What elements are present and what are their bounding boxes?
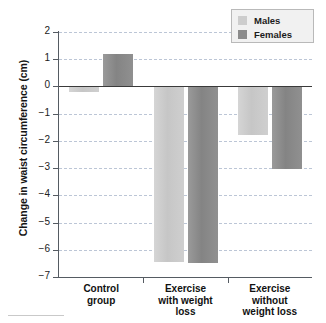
y-axis-tick-label: −1 bbox=[24, 107, 50, 118]
y-axis-tick-label: −4 bbox=[24, 188, 50, 199]
y-axis-tick bbox=[53, 114, 59, 115]
zero-line bbox=[53, 86, 312, 87]
gridline bbox=[59, 59, 312, 60]
y-axis-tick bbox=[53, 141, 59, 142]
gridline bbox=[59, 195, 312, 196]
x-axis-category-label: Exercisewith weightloss bbox=[143, 283, 227, 318]
bar-females-group-3 bbox=[272, 86, 302, 169]
y-axis-tick bbox=[53, 59, 59, 60]
x-axis-category-label-line: Exercise bbox=[143, 283, 227, 295]
legend-label-females: Females bbox=[254, 29, 292, 40]
y-axis-tick-label: −3 bbox=[24, 161, 50, 172]
x-axis-category-label: Exercisewithoutweight loss bbox=[228, 283, 312, 318]
x-axis-category-label-line: group bbox=[59, 295, 143, 307]
y-axis-line bbox=[58, 31, 59, 278]
x-axis-category-label-line: loss bbox=[143, 306, 227, 318]
chart-legend: Males Females bbox=[231, 9, 314, 43]
x-axis-line bbox=[58, 277, 312, 278]
x-axis-category-label-line: Exercise bbox=[228, 283, 312, 295]
bar-females-group-1 bbox=[103, 54, 133, 87]
y-axis-tick bbox=[53, 250, 59, 251]
legend-item-males: Males bbox=[238, 13, 309, 27]
x-axis-category-label-line: weight loss bbox=[228, 306, 312, 318]
legend-swatch-males-icon bbox=[238, 16, 247, 25]
y-axis-tick bbox=[53, 32, 59, 33]
y-axis-tick-label: −5 bbox=[24, 216, 50, 227]
x-axis-category-label-line: with weight bbox=[143, 295, 227, 307]
y-axis-tick-label: −2 bbox=[24, 134, 50, 145]
y-axis-tick bbox=[53, 223, 59, 224]
y-axis-tick bbox=[53, 168, 59, 169]
bar-females-group-2 bbox=[188, 86, 218, 263]
x-axis-category-label-line: Control bbox=[59, 283, 143, 295]
bar-males-group-3 bbox=[238, 86, 268, 135]
legend-label-males: Males bbox=[254, 15, 280, 26]
y-axis-tick bbox=[53, 86, 59, 87]
y-axis-tick bbox=[53, 277, 59, 278]
plot-area bbox=[59, 32, 312, 277]
y-axis-tick-label: −7 bbox=[24, 270, 50, 281]
gridline bbox=[59, 223, 312, 224]
legend-item-females: Females bbox=[238, 27, 309, 41]
gridline bbox=[59, 250, 312, 251]
y-axis-tick bbox=[53, 195, 59, 196]
y-axis-tick-label: 0 bbox=[24, 79, 50, 90]
bottom-rule-divider bbox=[8, 315, 64, 316]
x-axis-category-label: Controlgroup bbox=[59, 283, 143, 306]
bar-males-group-2 bbox=[154, 86, 184, 262]
y-axis-tick-label: 1 bbox=[24, 52, 50, 63]
y-axis-tick-label: −6 bbox=[24, 243, 50, 254]
bar-chart-figure: Change in waist circumference (cm) 210−1… bbox=[0, 0, 326, 323]
y-axis-tick-label: 2 bbox=[24, 25, 50, 36]
x-axis-category-label-line: without bbox=[228, 295, 312, 307]
y-axis-title: Change in waist circumference (cm) bbox=[17, 33, 29, 263]
legend-swatch-females-icon bbox=[238, 30, 247, 39]
